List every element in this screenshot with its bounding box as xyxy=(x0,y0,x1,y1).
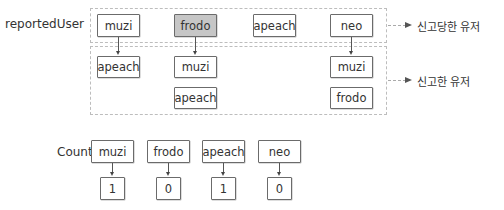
count-value-frodo: 0 xyxy=(156,177,181,200)
legend-reporter-label: 신고한 유저 xyxy=(417,73,471,89)
count-value-muzi: 1 xyxy=(100,177,125,200)
reported-user-apeach: apeach xyxy=(253,14,296,37)
count-value-neo: 0 xyxy=(267,177,292,200)
count-user-muzi: muzi xyxy=(91,140,134,163)
reporter-of-muzi-apeach: apeach xyxy=(97,56,140,78)
count-value-apeach: 1 xyxy=(211,177,236,200)
reported-user-neo: neo xyxy=(330,14,373,37)
count-arrow-frodo-head-icon xyxy=(166,172,170,176)
arrow-muzi-head-icon xyxy=(116,51,120,55)
arrow-frodo-line xyxy=(195,37,196,52)
reporter-of-frodo-apeach: apeach xyxy=(174,87,217,109)
arrow-neo-head-icon xyxy=(349,51,353,55)
arrow-neo-line xyxy=(351,37,352,52)
legend-reporter-connector xyxy=(388,80,406,81)
reporter-of-frodo-muzi: muzi xyxy=(174,56,217,78)
reporter-of-neo-frodo: frodo xyxy=(330,87,373,109)
arrow-muzi-line xyxy=(118,37,119,52)
legend-reported-label: 신고당한 유저 xyxy=(417,18,481,34)
legend-reported-connector xyxy=(388,25,406,26)
arrow-frodo-head-icon xyxy=(193,51,197,55)
reported-user-muzi: muzi xyxy=(97,14,140,37)
reporter-of-neo-muzi: muzi xyxy=(330,56,373,78)
reported-user-label: reportedUser xyxy=(5,17,84,31)
count-arrow-muzi-head-icon xyxy=(110,172,114,176)
legend-reported-arrow-icon xyxy=(405,22,412,28)
count-arrow-apeach-head-icon xyxy=(221,172,225,176)
count-arrow-neo-head-icon xyxy=(277,172,281,176)
count-user-neo: neo xyxy=(258,140,301,163)
count-user-apeach: apeach xyxy=(202,140,245,163)
legend-reporter-arrow-icon xyxy=(405,77,412,83)
count-user-frodo: frodo xyxy=(147,140,190,163)
reported-user-frodo: frodo xyxy=(174,14,217,37)
count-label: Count xyxy=(57,145,93,159)
